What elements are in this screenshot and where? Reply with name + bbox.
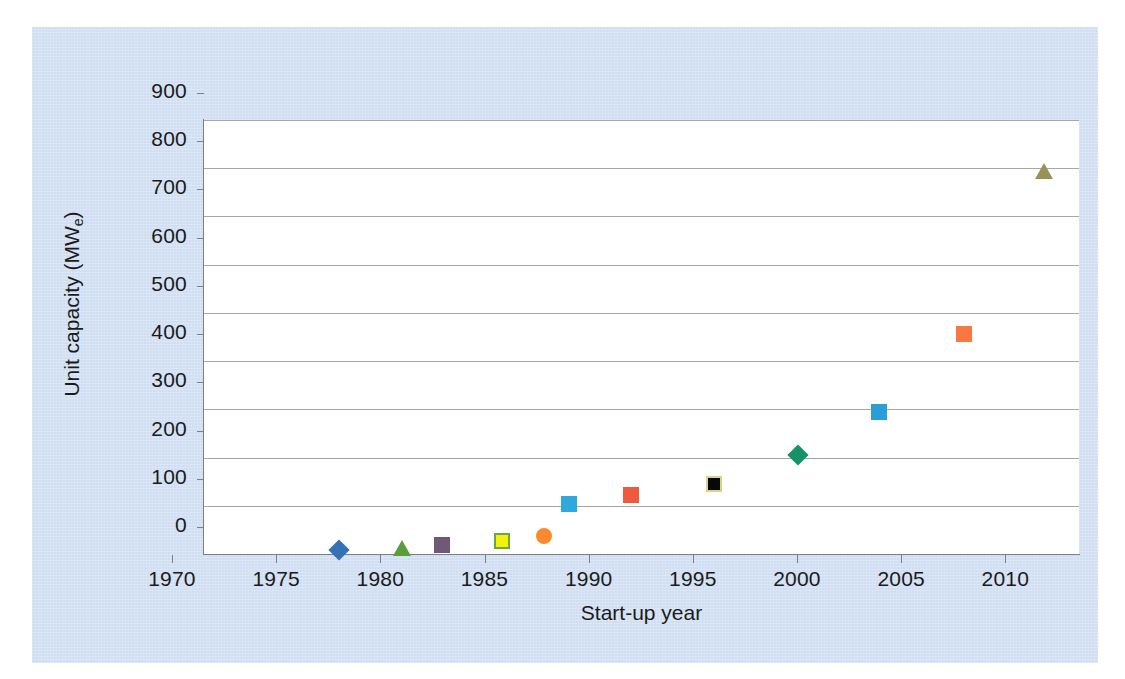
x-tick-mark-1970: [172, 555, 173, 563]
chart-panel: Unit capacity (MWe) 01002003004005006007…: [32, 27, 1098, 663]
y-tick-label-800: 800: [127, 127, 187, 151]
x-tick-mark-1980: [380, 555, 381, 563]
gridline-600: [204, 265, 1079, 266]
gridline-700: [204, 216, 1079, 217]
gridline-200: [204, 458, 1079, 459]
x-tick-label-1985: 1985: [440, 567, 530, 591]
chart-figure: Unit capacity (MWe) 01002003004005006007…: [0, 0, 1125, 679]
gridline-800: [204, 168, 1079, 169]
gridline-500: [204, 313, 1079, 314]
point-1998-teal-diamond: [787, 445, 808, 466]
gridline-400: [204, 361, 1079, 362]
y-tick-label-900: 900: [127, 79, 187, 103]
x-tick-mark-1975: [276, 555, 277, 563]
gridline-100: [204, 506, 1079, 507]
x-tick-label-2010: 2010: [960, 567, 1050, 591]
x-tick-label-1975: 1975: [231, 567, 321, 591]
x-tick-mark-1985: [485, 555, 486, 563]
x-tick-mark-1995: [693, 555, 694, 563]
y-axis-label-base: Unit capacity (MW: [60, 226, 83, 396]
point-1984-yellow-square: [494, 533, 510, 549]
point-1994-black-square: [706, 476, 722, 492]
x-tick-label-1990: 1990: [544, 567, 634, 591]
y-tick-label-200: 200: [127, 417, 187, 441]
y-axis-label: Unit capacity (MWe): [60, 144, 84, 464]
x-tick-label-1980: 1980: [335, 567, 425, 591]
point-1979-green-triangle: [393, 540, 411, 556]
gridline-900: [204, 120, 1079, 121]
y-tick-label-600: 600: [127, 224, 187, 248]
x-tick-label-2005: 2005: [856, 567, 946, 591]
y-tick-label-0: 0: [127, 513, 187, 537]
x-tick-label-2000: 2000: [752, 567, 842, 591]
x-tick-mark-2010: [1005, 555, 1006, 563]
y-axis-label-subscript: e: [70, 218, 86, 226]
x-tick-label-1995: 1995: [648, 567, 738, 591]
y-tick-label-400: 400: [127, 320, 187, 344]
point-2002-blue-square: [871, 404, 887, 420]
point-2006-orange-square: [956, 326, 972, 342]
point-1976-blue-diamond: [329, 540, 350, 561]
x-tick-mark-2005: [901, 555, 902, 563]
x-tick-mark-2000: [797, 555, 798, 563]
gridline-300: [204, 409, 1079, 410]
point-1986-orange-circle: [536, 528, 552, 544]
point-1990-red-square: [623, 487, 639, 503]
point-2010-olive-triangle: [1035, 163, 1053, 179]
x-tick-mark-1990: [589, 555, 590, 563]
y-tick-label-100: 100: [127, 465, 187, 489]
point-1987-blue-square: [561, 496, 577, 512]
point-1981-purple-square: [434, 537, 450, 553]
y-tick-label-500: 500: [127, 272, 187, 296]
y-tick-label-300: 300: [127, 368, 187, 392]
y-tick-mark-900: [197, 93, 204, 94]
x-axis-label: Start-up year: [204, 601, 1079, 625]
x-tick-label-1970: 1970: [127, 567, 217, 591]
y-tick-label-700: 700: [127, 175, 187, 199]
plot-area: [204, 120, 1079, 554]
